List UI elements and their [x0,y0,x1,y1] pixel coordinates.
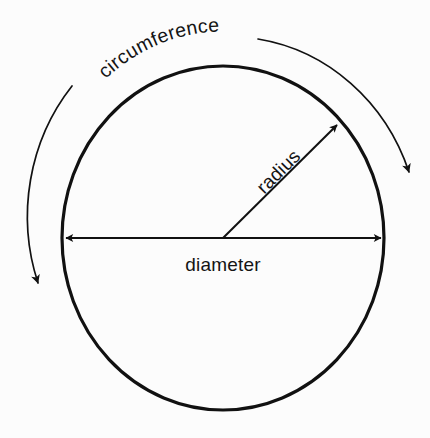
arc-arrow-down-left-icon [27,86,72,283]
circle-diagram: circumference radius diameter [0,0,430,438]
diameter-label: diameter [185,254,261,275]
arc-arrow-down-right-icon [258,39,409,172]
radius-label: radius [252,145,304,197]
diagram-canvas: circumference radius diameter [0,0,430,438]
circumference-label: circumference [93,13,219,82]
